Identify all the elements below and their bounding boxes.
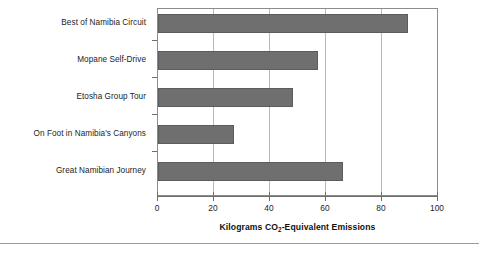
x-axis-title: Kilograms CO2-Equivalent Emissions [157,222,438,232]
y-axis-label-0: Best of Namibia Circuit [0,18,146,27]
x-axis-tick-label-20: 20 [193,203,233,213]
x-axis-tick-label-40: 40 [249,203,289,213]
bar-great-namibian-journey [158,162,343,181]
x-axis-tick-label-80: 80 [361,203,401,213]
x-axis-tick-label-0: 0 [137,203,177,213]
gridline-80 [381,9,382,195]
plot-area [157,8,438,196]
x-axis-tick-100 [437,192,438,201]
x-axis-title-post: -Equivalent Emissions [282,222,376,232]
bar-on-foot-in-namibias-canyons [158,125,234,144]
y-axis-label-4: Great Namibian Journey [0,166,146,175]
y-axis-label-1: Mopane Self-Drive [0,55,146,64]
x-axis-tick-label-100: 100 [417,203,457,213]
bar-chart-figure: Best of Namibia Circuit Mopane Self-Driv… [0,0,479,253]
x-axis-tick-label-60: 60 [305,203,345,213]
x-axis-tick-20 [213,192,214,201]
x-axis-tick-0 [157,192,158,201]
y-axis-label-2: Etosha Group Tour [0,92,146,101]
bar-mopane-self-drive [158,51,318,70]
x-axis-tick-60 [325,192,326,201]
y-axis-label-3: On Foot in Namibia's Canyons [0,129,146,138]
bottom-divider [0,243,479,244]
x-axis-line: 0 20 40 60 80 100 [157,196,438,197]
y-axis-labels: Best of Namibia Circuit Mopane Self-Driv… [0,8,152,196]
x-axis-tick-80 [381,192,382,201]
x-axis-tick-40 [269,192,270,201]
bar-etosha-group-tour [158,88,293,107]
x-axis-title-pre: Kilograms CO [220,222,279,232]
x-axis-title-subscript: 2 [278,226,282,233]
bar-best-of-namibia-circuit [158,14,408,33]
